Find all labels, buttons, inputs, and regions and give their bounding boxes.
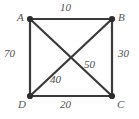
edge-weight-db: 40: [50, 74, 61, 85]
vertex-dot-D: [27, 93, 33, 99]
vertex-label-d: D: [18, 99, 26, 110]
edge-weight-ad: 70: [4, 48, 15, 59]
edge-weight-dc: 20: [60, 99, 71, 110]
graph-diagram: A B C D 10 30 20 70 40 50: [0, 0, 139, 119]
vertex-dot-C: [109, 93, 115, 99]
edge-weight-bc: 30: [118, 48, 129, 59]
vertex-label-a: A: [17, 12, 24, 23]
vertex-label-b: B: [118, 12, 125, 23]
vertex-dot-A: [27, 16, 33, 22]
edge-weight-ab: 10: [60, 2, 71, 13]
edge-weight-ac: 50: [84, 59, 95, 70]
edge-lines: [30, 19, 112, 96]
vertex-label-c: C: [117, 99, 124, 110]
vertex-dot-B: [109, 16, 115, 22]
